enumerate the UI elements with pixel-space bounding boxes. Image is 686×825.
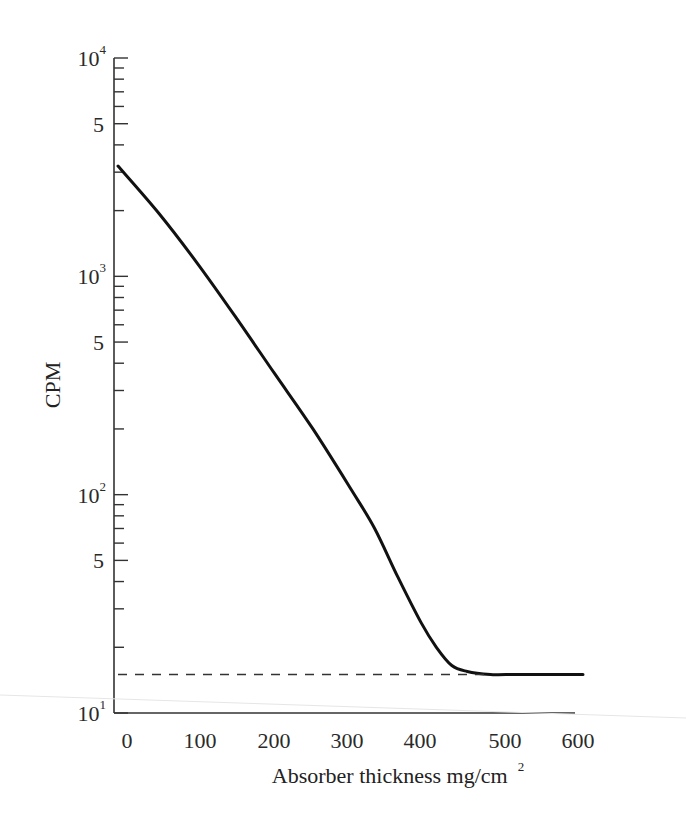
y-tick-label: 5 bbox=[93, 330, 104, 355]
absorption-chart: 104510351025101 0100200300400500600 CPM … bbox=[0, 0, 686, 825]
y-tick-label: 5 bbox=[93, 548, 104, 573]
x-tick-label: 200 bbox=[258, 728, 291, 753]
data-series bbox=[118, 166, 583, 675]
x-axis-title: Absorber thickness mg/cm2 bbox=[272, 759, 524, 788]
x-tick-label: 300 bbox=[331, 728, 364, 753]
x-tick-label: 500 bbox=[489, 728, 522, 753]
x-tick-label: 0 bbox=[122, 728, 133, 753]
y-tick-label: 103 bbox=[78, 260, 107, 289]
y-axis: 104510351025101 bbox=[78, 42, 129, 726]
x-tick-label: 600 bbox=[562, 728, 595, 753]
y-axis-title: CPM bbox=[40, 362, 65, 408]
y-tick-label: 101 bbox=[78, 697, 107, 726]
x-tick-label: 400 bbox=[404, 728, 437, 753]
y-tick-label: 104 bbox=[78, 42, 107, 71]
x-tick-label: 100 bbox=[184, 728, 217, 753]
y-tick-label: 5 bbox=[93, 112, 104, 137]
absorption-curve bbox=[118, 166, 583, 675]
y-tick-label: 102 bbox=[78, 479, 107, 508]
